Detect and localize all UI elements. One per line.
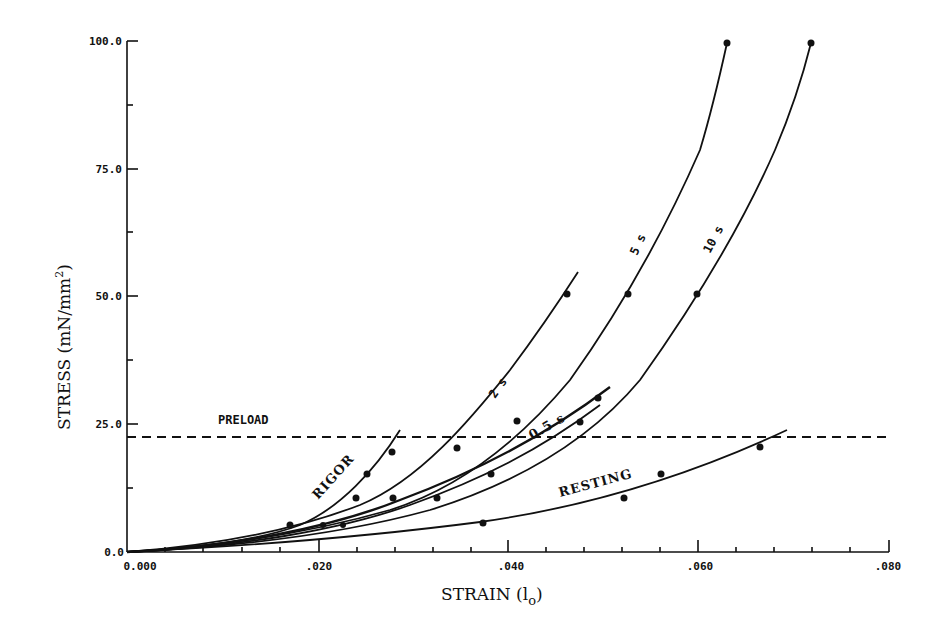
y-tick-100: 100.0 [89,35,122,48]
rigor-label: RIGOR [309,451,357,502]
axes [127,41,889,552]
y-tick-50: 50.0 [96,290,123,303]
y-tick-25: 25.0 [96,418,123,431]
svg-text:STRAIN (lo): STRAIN (lo) [441,584,543,608]
x-tick-60: .060 [687,560,714,573]
y-axis-title: STRESS (mN/mm2) [53,264,74,430]
y-tick-75: 75.0 [96,163,123,176]
x-tick-20: .020 [306,560,333,573]
stress-strain-chart: 100.0 75.0 50.0 25.0 0.0 0.000 .020 .040… [0,0,951,627]
x-tick-40: .040 [498,560,525,573]
label-10s: 10 s [700,223,726,255]
x-tick-0: 0.000 [123,560,156,573]
label-5s: 5 s [627,232,649,258]
resting-label: RESTING [557,466,634,500]
svg-text:STRESS (mN/mm2): STRESS (mN/mm2) [53,264,74,430]
x-tick-80: .080 [875,560,902,573]
curve-0-5s [127,387,610,552]
y-tick-0: 0.0 [104,546,124,559]
data-points [287,40,815,529]
curve-5s [127,43,727,552]
label-2s: 2 s [486,375,510,401]
label-0-5s: 0.5 s [526,410,568,443]
curves [127,43,811,552]
x-axis-title: STRAIN (lo) [441,584,543,608]
preload-label: PRELOAD [218,413,269,427]
curve-2s [127,272,578,552]
